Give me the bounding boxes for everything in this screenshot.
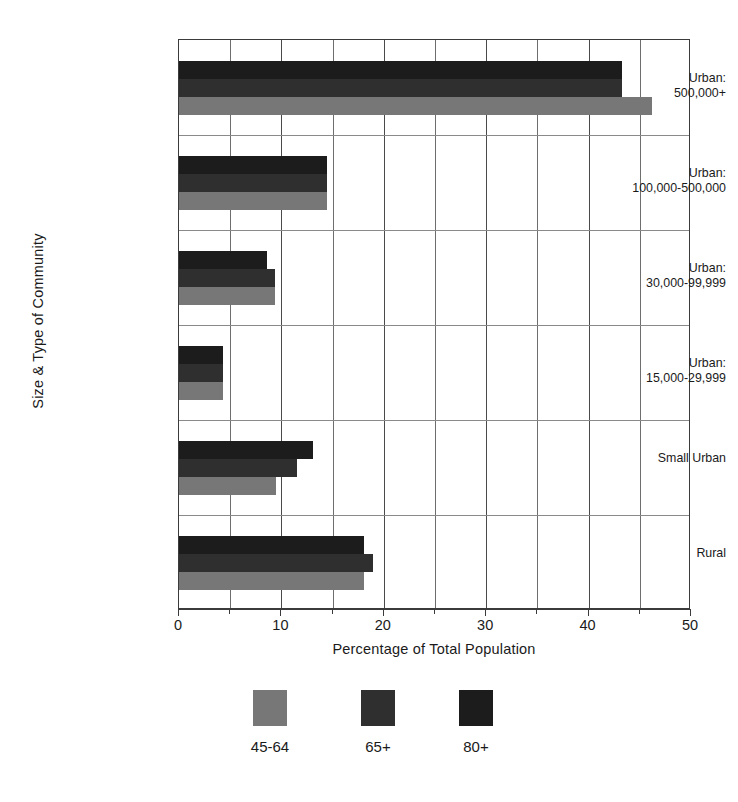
x-axis-major-tick: [588, 609, 589, 616]
bar-65plus: [179, 269, 275, 287]
x-axis-major-tick: [178, 609, 179, 616]
bar-45-64: [179, 192, 327, 210]
y-axis-tick-label: Urban: 500,000+: [566, 71, 738, 101]
legend-label: 45-64: [233, 738, 307, 755]
gridline-horizontal: [179, 230, 689, 231]
bar-45-64: [179, 477, 276, 495]
bar-65plus: [179, 79, 622, 97]
x-axis-tick-label: 50: [668, 617, 712, 633]
legend-item[interactable]: 65+: [341, 690, 415, 755]
bar-45-64: [179, 572, 364, 590]
bar-45-64: [179, 287, 275, 305]
x-axis-minor-tick: [229, 609, 230, 614]
y-axis-tick-label: Small Urban: [566, 451, 738, 466]
legend-label: 65+: [341, 738, 415, 755]
plot-area: [178, 39, 690, 609]
bar-80plus: [179, 251, 267, 269]
gridline-vertical: [537, 40, 538, 608]
x-axis-tick-label: 40: [566, 617, 610, 633]
y-axis-tick-label: Urban: 100,000-500,000: [566, 166, 738, 196]
chart-legend: 45-6465+80+: [233, 690, 513, 778]
bar-80plus: [179, 346, 223, 364]
legend-label: 80+: [439, 738, 513, 755]
bar-65plus: [179, 554, 373, 572]
legend-item[interactable]: 80+: [439, 690, 513, 755]
x-axis-major-tick: [690, 609, 691, 616]
bar-65plus: [179, 174, 327, 192]
x-axis-major-tick: [383, 609, 384, 616]
gridline-vertical: [384, 40, 385, 608]
x-axis-minor-tick: [332, 609, 333, 614]
gridline-vertical: [589, 40, 590, 608]
gridline-vertical: [486, 40, 487, 608]
gridline-horizontal: [179, 420, 689, 421]
x-axis-tick-label: 10: [258, 617, 302, 633]
gridline-horizontal: [179, 325, 689, 326]
x-axis-minor-tick: [639, 609, 640, 614]
x-axis-tick-label: 30: [463, 617, 507, 633]
bar-chart: Size & Type of Community Urban: 500,000+…: [0, 0, 738, 802]
x-axis-minor-tick: [434, 609, 435, 614]
x-axis-tick-label: 0: [156, 617, 200, 633]
y-axis-tick-label: Urban: 30,000-99,999: [566, 261, 738, 291]
bar-45-64: [179, 382, 223, 400]
legend-swatch: [459, 690, 493, 726]
x-axis-minor-tick: [536, 609, 537, 614]
legend-item[interactable]: 45-64: [233, 690, 307, 755]
bar-80plus: [179, 61, 622, 79]
gridline-horizontal: [179, 515, 689, 516]
bar-80plus: [179, 441, 313, 459]
gridline-vertical: [281, 40, 282, 608]
bar-65plus: [179, 459, 297, 477]
y-axis-title: Size & Type of Community: [30, 191, 46, 451]
bar-80plus: [179, 536, 364, 554]
y-axis-tick-label: Urban: 15,000-29,999: [566, 356, 738, 386]
x-axis-major-tick: [485, 609, 486, 616]
x-axis-tick-label: 20: [361, 617, 405, 633]
gridline-vertical: [435, 40, 436, 608]
bar-80plus: [179, 156, 327, 174]
legend-swatch: [253, 690, 287, 726]
x-axis-major-tick: [280, 609, 281, 616]
gridline-vertical: [333, 40, 334, 608]
x-axis-title: Percentage of Total Population: [178, 641, 690, 657]
bar-65plus: [179, 364, 223, 382]
gridline-vertical: [640, 40, 641, 608]
gridline-vertical: [230, 40, 231, 608]
legend-swatch: [361, 690, 395, 726]
gridline-horizontal: [179, 135, 689, 136]
y-axis-tick-label: Rural: [566, 546, 738, 561]
